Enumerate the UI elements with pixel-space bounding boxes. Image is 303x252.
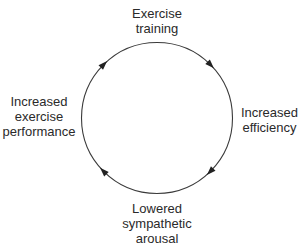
node-label-line: Increased <box>0 94 78 109</box>
node-label-line: exercise <box>0 109 78 124</box>
node-increased-exercise-performance: Increased exercise performance <box>0 94 78 139</box>
node-label-line: Lowered <box>107 201 207 216</box>
node-label-line: Increased <box>236 105 303 120</box>
node-increased-efficiency: Increased efficiency <box>236 105 303 135</box>
node-label-line: efficiency <box>236 120 303 135</box>
node-lowered-sympathetic-arousal: Lowered sympathetic arousal <box>107 201 207 246</box>
exercise-cycle-diagram: Exercise training Increased efficiency L… <box>0 0 303 252</box>
node-label-line: arousal <box>107 231 207 246</box>
node-label-line: Exercise <box>107 6 207 21</box>
node-label-line: performance <box>0 124 78 139</box>
node-label-line: sympathetic <box>107 216 207 231</box>
node-exercise-training: Exercise training <box>107 6 207 36</box>
node-label-line: training <box>107 21 207 36</box>
